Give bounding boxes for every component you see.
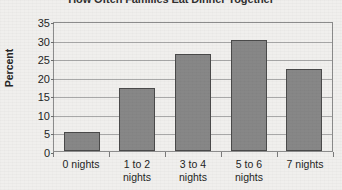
y-axis-title: Percent <box>3 38 15 98</box>
x-tick-mark <box>277 152 278 157</box>
y-tick-label: 0 <box>44 147 50 159</box>
bar-slot <box>276 23 332 151</box>
chart-title: How Often Families Eat Dinner Together <box>0 0 342 5</box>
bar-slot <box>110 23 166 151</box>
y-tick-label: 35 <box>38 17 50 29</box>
bar[interactable] <box>119 88 155 151</box>
x-tick-label: 5 to 6 nights <box>221 158 277 184</box>
bar[interactable] <box>64 132 100 151</box>
bar[interactable] <box>231 40 267 151</box>
x-tick-label: 7 nights <box>277 158 333 184</box>
bar[interactable] <box>286 69 322 151</box>
bar-slot <box>221 23 277 151</box>
bar-chart-screenshot: How Often Families Eat Dinner Together P… <box>0 0 342 190</box>
bar-slot <box>54 23 110 151</box>
y-tick-label: 25 <box>38 54 50 66</box>
x-tick-mark <box>221 152 222 157</box>
x-axis-labels: 0 nights1 to 2 nights3 to 4 nights5 to 6… <box>53 158 333 184</box>
x-tick-mark <box>333 152 334 157</box>
bar[interactable] <box>175 54 211 151</box>
bar-series <box>54 23 332 151</box>
y-tick-label: 10 <box>38 110 50 122</box>
plot-area: 05101520253035 <box>53 22 333 152</box>
x-tick-label: 1 to 2 nights <box>109 158 165 184</box>
x-axis-ticks <box>53 152 333 157</box>
y-tick-label: 30 <box>38 36 50 48</box>
x-tick-mark <box>53 152 54 157</box>
y-tick-label: 15 <box>38 91 50 103</box>
y-tick-label: 5 <box>44 128 50 140</box>
bar-slot <box>165 23 221 151</box>
x-tick-label: 3 to 4 nights <box>165 158 221 184</box>
y-tick-label: 20 <box>38 73 50 85</box>
x-tick-mark <box>109 152 110 157</box>
x-tick-mark <box>165 152 166 157</box>
x-tick-label: 0 nights <box>53 158 109 184</box>
